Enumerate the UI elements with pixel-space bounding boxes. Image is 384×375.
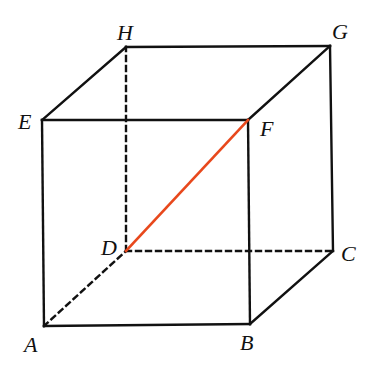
vertex-label-h: H bbox=[117, 22, 133, 44]
edge-bc bbox=[250, 251, 333, 324]
vertex-label-c: C bbox=[341, 243, 356, 265]
vertex-label-a: A bbox=[24, 334, 37, 356]
edge-cg bbox=[330, 46, 333, 251]
hidden-edge-ad bbox=[44, 251, 126, 326]
vertex-label-d: D bbox=[101, 237, 117, 259]
edge-gh bbox=[126, 46, 330, 47]
edge-he bbox=[42, 47, 126, 120]
edge-fg bbox=[248, 46, 330, 120]
edge-fb bbox=[248, 120, 250, 324]
edge-ab bbox=[44, 324, 250, 326]
vertex-label-e: E bbox=[18, 111, 31, 133]
vertex-label-b: B bbox=[240, 332, 253, 354]
highlight-segment-df bbox=[126, 120, 248, 251]
vertex-label-f: F bbox=[260, 118, 273, 140]
cube-diagram: A B C D E F G H bbox=[0, 0, 384, 375]
vertex-label-g: G bbox=[332, 21, 348, 43]
cube-figure bbox=[0, 0, 384, 375]
edge-ea bbox=[42, 120, 44, 326]
